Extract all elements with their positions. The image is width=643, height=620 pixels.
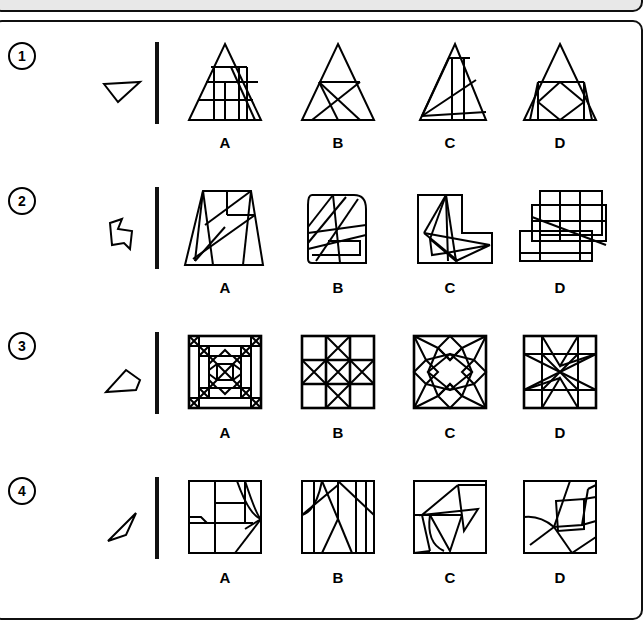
prompt-shape-3-icon bbox=[92, 346, 162, 416]
option-4-D[interactable]: D bbox=[510, 471, 610, 601]
option-3-C-figure bbox=[400, 326, 500, 422]
option-2-C-figure bbox=[400, 181, 500, 277]
prompt-shape-4 bbox=[92, 491, 162, 561]
option-3-A-figure bbox=[175, 326, 275, 422]
prompt-shape-2 bbox=[92, 201, 162, 271]
option-4-B[interactable]: B bbox=[288, 471, 388, 601]
option-3-D[interactable]: D bbox=[510, 326, 610, 456]
prompt-shape-2-icon bbox=[92, 201, 162, 271]
option-1-B[interactable]: B bbox=[288, 36, 388, 166]
question-row-3: 3 bbox=[0, 324, 635, 469]
option-4-B-label: B bbox=[288, 569, 388, 586]
question-list: 1 A bbox=[0, 34, 635, 585]
option-4-A-figure bbox=[175, 471, 275, 567]
option-4-C[interactable]: C bbox=[400, 471, 500, 601]
option-2-A[interactable]: A bbox=[175, 181, 275, 311]
option-1-A-label: A bbox=[175, 134, 275, 151]
option-1-A[interactable]: A bbox=[175, 36, 275, 166]
option-4-D-figure bbox=[510, 471, 610, 567]
row-divider-1 bbox=[155, 42, 159, 124]
option-1-B-label: B bbox=[288, 134, 388, 151]
option-1-D-figure bbox=[510, 36, 610, 132]
row-divider-4 bbox=[155, 477, 159, 559]
options-row-4: A B bbox=[175, 471, 635, 611]
option-4-C-figure bbox=[400, 471, 500, 567]
option-3-B-label: B bbox=[288, 424, 388, 441]
option-2-D[interactable]: D bbox=[510, 181, 610, 311]
option-3-C-label: C bbox=[400, 424, 500, 441]
option-1-C-label: C bbox=[400, 134, 500, 151]
options-row-1: A B bbox=[175, 36, 635, 176]
option-2-A-label: A bbox=[175, 279, 275, 296]
options-row-3: A B bbox=[175, 326, 635, 466]
question-row-1: 1 A bbox=[0, 34, 635, 179]
row-divider-2 bbox=[155, 187, 159, 269]
option-4-D-label: D bbox=[510, 569, 610, 586]
option-4-A[interactable]: A bbox=[175, 471, 275, 601]
prompt-shape-3 bbox=[92, 346, 162, 416]
row-divider-3 bbox=[155, 332, 159, 414]
option-3-C[interactable]: C bbox=[400, 326, 500, 456]
option-1-C-figure bbox=[400, 36, 500, 132]
option-3-A[interactable]: A bbox=[175, 326, 275, 456]
option-4-A-label: A bbox=[175, 569, 275, 586]
option-1-B-figure bbox=[288, 36, 388, 132]
option-2-C-label: C bbox=[400, 279, 500, 296]
option-3-D-figure bbox=[510, 326, 610, 422]
question-number-1: 1 bbox=[8, 42, 36, 70]
option-2-A-figure bbox=[175, 181, 275, 277]
question-number-3: 3 bbox=[8, 332, 36, 360]
option-2-B[interactable]: B bbox=[288, 181, 388, 311]
option-1-A-figure bbox=[175, 36, 275, 132]
question-number-2: 2 bbox=[8, 187, 36, 215]
option-4-B-figure bbox=[288, 471, 388, 567]
prompt-shape-1-icon bbox=[92, 56, 162, 126]
option-4-C-label: C bbox=[400, 569, 500, 586]
question-number-4: 4 bbox=[8, 477, 36, 505]
option-3-D-label: D bbox=[510, 424, 610, 441]
top-panel-edges bbox=[0, 0, 635, 34]
option-2-B-label: B bbox=[288, 279, 388, 296]
option-3-B[interactable]: B bbox=[288, 326, 388, 456]
prompt-shape-4-icon bbox=[92, 491, 162, 561]
option-3-B-figure bbox=[288, 326, 388, 422]
option-2-D-figure bbox=[510, 181, 610, 277]
option-1-D[interactable]: D bbox=[510, 36, 610, 166]
option-1-C[interactable]: C bbox=[400, 36, 500, 166]
option-1-D-label: D bbox=[510, 134, 610, 151]
prompt-shape-1 bbox=[92, 56, 162, 126]
upper-panel-bottom-edge bbox=[0, 0, 643, 12]
question-row-2: 2 A bbox=[0, 179, 635, 324]
options-row-2: A B bbox=[175, 181, 635, 321]
option-2-B-figure bbox=[288, 181, 388, 277]
option-2-D-label: D bbox=[510, 279, 610, 296]
option-3-A-label: A bbox=[175, 424, 275, 441]
option-2-C[interactable]: C bbox=[400, 181, 500, 311]
question-row-4: 4 A bbox=[0, 469, 635, 614]
